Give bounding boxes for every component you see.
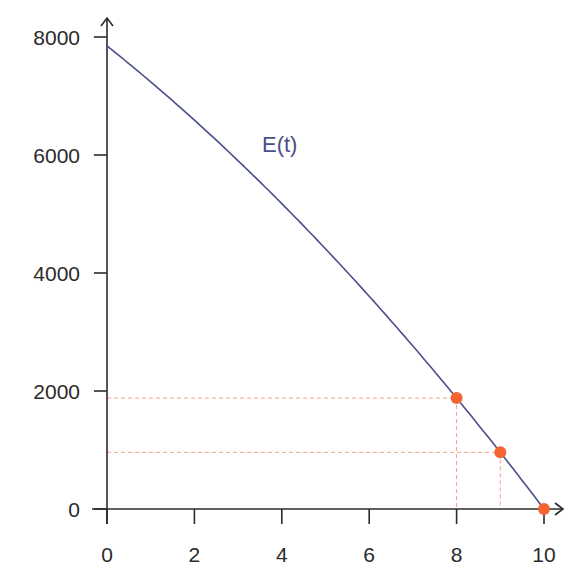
highlight-point [494, 446, 506, 458]
highlight-point [538, 503, 550, 515]
y-tick-label: 0 [68, 498, 80, 521]
x-tick-label: 2 [189, 543, 201, 566]
highlight-point [451, 392, 463, 404]
x-tick-label: 4 [276, 543, 288, 566]
x-ticks: 0246810 [101, 509, 556, 566]
x-tick-label: 8 [451, 543, 463, 566]
y-ticks: 02000400060008000 [33, 26, 107, 521]
series [107, 46, 544, 509]
chart: 0246810 02000400060008000 E(t) [0, 0, 572, 584]
y-axis [101, 18, 113, 524]
x-tick-label: 10 [532, 543, 555, 566]
y-tick-label: 4000 [33, 262, 80, 285]
curve-e-of-t [107, 46, 544, 509]
y-tick-label: 2000 [33, 380, 80, 403]
curve-label: E(t) [262, 132, 297, 157]
y-tick-label: 6000 [33, 144, 80, 167]
x-axis [92, 503, 563, 515]
x-tick-label: 0 [101, 543, 113, 566]
guide-lines [107, 398, 500, 509]
y-tick-label: 8000 [33, 26, 80, 49]
x-tick-label: 6 [363, 543, 375, 566]
